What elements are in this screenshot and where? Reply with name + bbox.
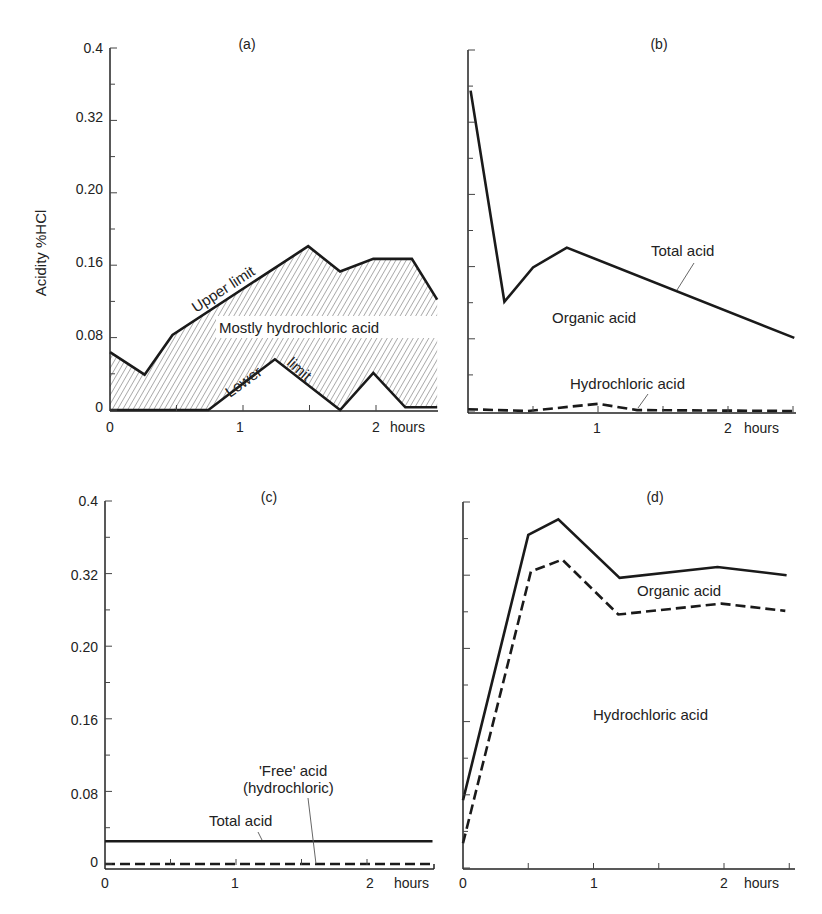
panel-a: (a) 0.4 0.32 0.20 0.16 0.08 0 0 1 2 hour… (76, 36, 441, 435)
y-tick-label: 0.32 (76, 109, 103, 125)
organic-acid-label: Organic acid (637, 582, 721, 599)
total-acid-label: Total acid (209, 812, 272, 829)
y-axis-title: Acidity %HCl (32, 210, 49, 297)
total-acid-label: Total acid (651, 242, 714, 259)
panel-a-title: (a) (238, 36, 255, 52)
x-tick-label: 1 (590, 875, 598, 891)
panel-d-title: (d) (646, 489, 663, 505)
x-tick-label: 2 (724, 420, 732, 436)
x-tick-label: 1 (593, 420, 601, 436)
y-tick-label: 0.16 (71, 712, 98, 728)
x-tick-label: 2 (372, 419, 380, 435)
y-tick-label: 0.08 (76, 327, 103, 343)
y-tick-label: 0.4 (79, 493, 99, 509)
panel-b: (b) 1 2 hours Total acid Organic acid Hy… (468, 36, 796, 436)
total-acid-leader (677, 263, 694, 290)
free-acid-leader (308, 798, 316, 864)
region-label: Mostly hydrochloric acid (219, 319, 379, 336)
x-tick-label: 0 (459, 875, 467, 891)
free-acid-label: 'Free' acid (259, 762, 327, 779)
panel-d-x-ticks (528, 863, 789, 869)
y-tick-label: 0.20 (71, 639, 98, 655)
panel-c-y-ticks (105, 501, 112, 864)
hydrochloric-acid-line (468, 404, 794, 411)
y-tick-label: 0.4 (84, 40, 104, 56)
panel-c: (c) 0.4 0.32 0.20 0.16 0.08 0 0 1 2 hour… (71, 489, 434, 891)
y-tick-label: 0.32 (71, 567, 98, 583)
total-acid-line (463, 519, 787, 800)
x-tick-label: 1 (231, 875, 239, 891)
y-tick-label: 0.08 (71, 786, 98, 802)
hcl-leader (638, 394, 648, 408)
panel-c-title: (c) (261, 489, 277, 505)
y-tick-label: 0 (95, 399, 103, 415)
y-tick-label: 0.16 (76, 254, 103, 270)
hydrochloric-acid-label: Hydrochloric acid (570, 375, 685, 392)
x-tick-label: 0 (106, 419, 114, 435)
x-unit-label: hours (744, 875, 779, 891)
x-unit-label: hours (394, 875, 429, 891)
x-unit-label: hours (390, 419, 425, 435)
x-tick-label: 1 (236, 419, 244, 435)
panel-d-y-ticks (463, 502, 470, 868)
acidity-figure: Acidity %HCl (a) 0.4 0.32 0.20 0.16 0.08… (0, 0, 822, 914)
x-tick-label: 0 (101, 875, 109, 891)
total-acid-leader (258, 832, 262, 840)
x-unit-label: hours (744, 420, 779, 436)
free-acid-label-2: (hydrochloric) (243, 779, 334, 796)
x-tick-label: 2 (366, 875, 374, 891)
total-acid-line (471, 91, 795, 338)
y-tick-label: 0.20 (76, 181, 103, 197)
organic-acid-label: Organic acid (552, 309, 636, 326)
panel-d: (d) 0 1 2 hours Organic acid Hydrochlori… (459, 489, 795, 891)
panel-b-title: (b) (650, 36, 667, 52)
x-tick-label: 2 (720, 875, 728, 891)
y-tick-label: 0 (90, 854, 98, 870)
hydrochloric-acid-label: Hydrochloric acid (593, 706, 708, 723)
